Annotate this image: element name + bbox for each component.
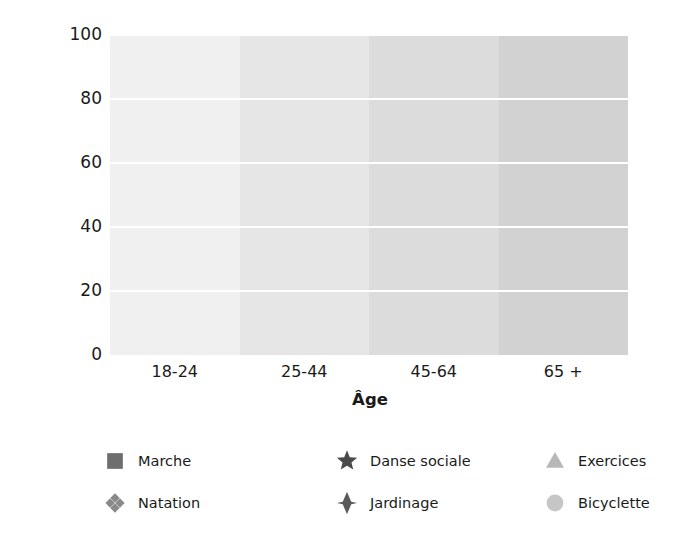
- x-axis-title: Âge: [110, 390, 630, 409]
- gridline: [110, 98, 628, 100]
- legend-marker-triangle-icon: [544, 450, 566, 472]
- gridline: [110, 290, 628, 292]
- legend-label: Bicyclette: [578, 496, 650, 511]
- marker-diamond: [337, 492, 357, 514]
- plot-area: [110, 35, 628, 355]
- background-band: [499, 35, 629, 355]
- legend-label: Natation: [138, 496, 200, 511]
- gridline: [110, 226, 628, 228]
- y-tick-label: 60: [56, 152, 102, 172]
- x-tick-label: 45-64: [379, 362, 489, 381]
- marker-triangle: [546, 452, 564, 468]
- legend-marker-square-icon: [104, 450, 126, 472]
- legend-item[interactable]: Danse sociale: [336, 450, 471, 472]
- chart-figure: Nombre d'amateurs (%) Âge 100806040200 1…: [0, 0, 687, 555]
- gridline: [110, 35, 628, 36]
- marker-star: [337, 450, 357, 469]
- x-tick-label: 25-44: [249, 362, 359, 381]
- background-band: [369, 35, 499, 355]
- y-tick-label: 80: [56, 88, 102, 108]
- y-tick-label: 20: [56, 280, 102, 300]
- marker-circle: [547, 495, 564, 512]
- y-axis-tick-labels: 100806040200: [52, 0, 102, 400]
- x-tick-label: 65 +: [508, 362, 618, 381]
- legend-label: Exercices: [578, 454, 646, 469]
- legend-item[interactable]: Exercices: [544, 450, 646, 472]
- marker-square: [107, 453, 123, 469]
- y-tick-label: 0: [56, 344, 102, 364]
- x-tick-label: 18-24: [120, 362, 230, 381]
- legend-marker-circle-icon: [544, 492, 566, 514]
- chart-legend: MarcheNatationDanse socialeJardinageExer…: [104, 450, 664, 540]
- legend-marker-diamond-icon: [336, 492, 358, 514]
- background-band: [240, 35, 370, 355]
- legend-item[interactable]: Jardinage: [336, 492, 438, 514]
- legend-item[interactable]: Natation: [104, 492, 200, 514]
- legend-label: Marche: [138, 454, 191, 469]
- background-band: [110, 35, 240, 355]
- legend-marker-diamond-cluster-icon: [104, 492, 126, 514]
- x-axis-tick-labels: 18-2425-4445-6465 +: [110, 362, 630, 392]
- legend-item[interactable]: Bicyclette: [544, 492, 650, 514]
- y-tick-label: 40: [56, 216, 102, 236]
- y-tick-label: 100: [56, 24, 102, 44]
- legend-marker-star-icon: [336, 450, 358, 472]
- gridline: [110, 162, 628, 164]
- legend-label: Danse sociale: [370, 454, 471, 469]
- legend-label: Jardinage: [370, 496, 438, 511]
- legend-item[interactable]: Marche: [104, 450, 191, 472]
